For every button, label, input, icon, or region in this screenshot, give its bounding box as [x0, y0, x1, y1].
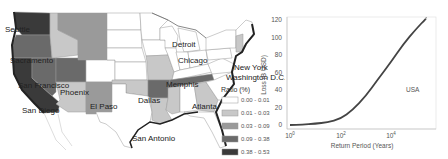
y-tick: 60 [275, 69, 283, 76]
city-label: Dallas [138, 96, 160, 105]
legend-swatch [222, 149, 238, 155]
city-label: San Antonio [132, 134, 176, 143]
loss-return-period-chart: 0 20 40 60 80 100 120 Loss (B USD) 100 1… [255, 0, 448, 159]
mexico-border [44, 113, 66, 150]
city-label: Sacramento [10, 56, 54, 65]
x-tick: 100 [285, 131, 295, 139]
legend-swatch [222, 97, 238, 103]
state-wyoming [78, 38, 107, 60]
x-axis-label: Return Period (Years) [331, 142, 394, 150]
state-new-york [206, 30, 236, 50]
state-colorado [86, 60, 115, 82]
x-tick: 104 [386, 131, 396, 139]
y-tick: 100 [271, 34, 282, 41]
city-label: Phoenix [60, 88, 89, 97]
state-south-dakota [107, 30, 142, 48]
legend-swatch [222, 136, 238, 142]
state-nebraska [107, 48, 146, 62]
x-tick: 102 [336, 131, 346, 139]
city-label: Memphis [166, 80, 198, 89]
city-label: San Diego [22, 106, 60, 115]
state-mississippi [166, 86, 180, 114]
state-oregon [12, 35, 52, 58]
state-iowa [142, 40, 168, 56]
legend-swatch [222, 110, 238, 116]
state-utah [56, 58, 86, 82]
y-tick: 20 [275, 104, 283, 111]
series-annotation-usa: USA [406, 86, 420, 93]
y-tick: 40 [275, 86, 283, 93]
us-choropleth-map: Seattle Sacramento San Francisco San Die… [0, 0, 285, 159]
baja [58, 114, 72, 146]
y-tick: 0 [278, 121, 282, 128]
state-new-hampshire [236, 34, 243, 52]
state-north-dakota [107, 13, 141, 30]
city-label: Chicago [178, 56, 208, 65]
city-label: Atlanta [192, 102, 217, 111]
legend-title: Ratio (%) [221, 86, 250, 94]
state-kansas [115, 62, 147, 80]
city-label: Detroit [172, 40, 196, 49]
city-label: El Paso [90, 102, 118, 111]
legend-swatch [222, 123, 238, 129]
y-tick: 80 [275, 51, 283, 58]
city-label: Seattle [5, 25, 30, 34]
y-tick: 120 [271, 16, 282, 23]
plot-frame [287, 17, 436, 129]
y-axis-label: Loss (B USD) [260, 55, 268, 95]
state-virginia [208, 58, 234, 74]
state-florida [184, 112, 226, 148]
